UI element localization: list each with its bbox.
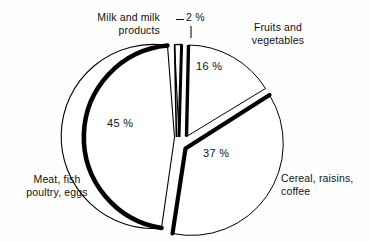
pie-slice-meat-shape[interactable]: [61, 44, 174, 228]
pie-slice-fruits-shadow-edge: [187, 45, 189, 137]
slice-value-fruits: 16 %: [196, 60, 222, 72]
slice-label-meat: Meat, fish poultry, eggs: [6, 173, 108, 198]
pie-chart-figure: Milk and milk products Fruits and vegeta…: [0, 0, 369, 242]
slice-label-fruits: Fruits and vegetables: [228, 21, 328, 46]
pie-slice-milk[interactable]: [175, 44, 182, 137]
slice-label-milk: Milk and milk products: [55, 11, 160, 36]
slice-label-cereal: Cereal, raisins, coffee: [281, 172, 369, 197]
callout-dash-milk: [176, 19, 184, 20]
pie-slice-meat[interactable]: [61, 44, 174, 228]
slice-value-milk: 2 %: [186, 11, 205, 23]
slice-value-cereal: 37 %: [203, 147, 229, 159]
slice-value-meat: 45 %: [107, 117, 133, 129]
